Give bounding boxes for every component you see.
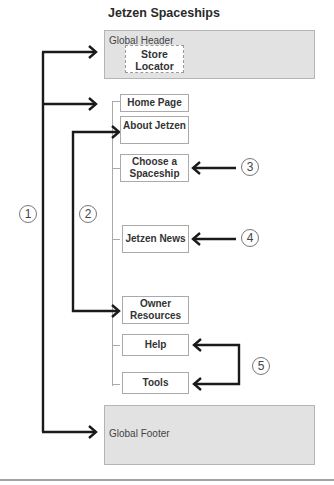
nav-tools[interactable]: Tools [122, 372, 189, 394]
nav-owner-resources[interactable]: Owner Resources [122, 296, 189, 324]
callout-2: 2 [79, 205, 97, 223]
nav-help[interactable]: Help [122, 334, 189, 356]
nav-choose-a-spaceship[interactable]: Choose a Spaceship [120, 154, 189, 182]
nav-jetzen-news[interactable]: Jetzen News [122, 225, 189, 253]
global-footer: Global Footer [104, 405, 315, 465]
page-title: Jetzen Spaceships [108, 6, 220, 20]
callout-5: 5 [252, 357, 270, 375]
nav-about-jetzen[interactable]: About Jetzen [120, 116, 189, 144]
callout-4: 4 [241, 229, 259, 247]
global-footer-label: Global Footer [109, 428, 170, 439]
callout-1: 1 [19, 205, 37, 223]
callout-3: 3 [241, 158, 259, 176]
nav-home-page[interactable]: Home Page [120, 94, 189, 112]
store-locator[interactable]: Store Locator [125, 45, 184, 73]
